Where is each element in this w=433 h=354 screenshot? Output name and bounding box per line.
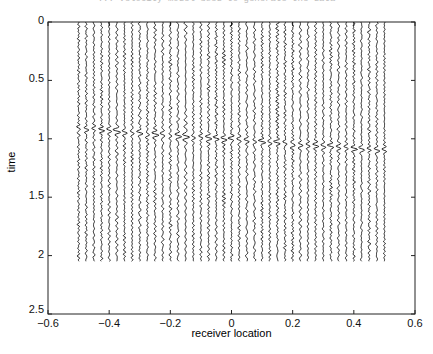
y-tick-label: 2.5 xyxy=(14,303,44,315)
seismic-trace xyxy=(327,22,333,261)
wiggle-plot xyxy=(0,0,433,354)
seismic-trace xyxy=(199,22,204,261)
seismic-trace xyxy=(268,22,272,261)
seismic-trace xyxy=(258,22,265,261)
seismic-trace xyxy=(137,22,143,261)
seismic-trace xyxy=(122,22,127,261)
seismic-trace xyxy=(84,22,89,261)
seismic-trace xyxy=(205,22,211,261)
seismic-trace xyxy=(298,22,303,261)
seismic-trace xyxy=(359,22,365,261)
y-tick-label: 1.5 xyxy=(14,189,44,201)
seismic-trace xyxy=(313,22,319,261)
seismic-trace xyxy=(283,22,287,261)
y-tick-label: 1 xyxy=(14,131,44,143)
seismic-trace xyxy=(290,22,295,261)
seismic-trace xyxy=(244,22,249,261)
seismic-trace xyxy=(336,22,340,261)
seismic-trace xyxy=(92,22,96,261)
seismic-trace xyxy=(77,22,81,261)
seismic-trace xyxy=(192,22,196,261)
seismic-trace xyxy=(351,22,357,261)
seismic-trace xyxy=(113,22,120,261)
seismic-trace xyxy=(253,22,257,261)
y-tick-label: 0.5 xyxy=(14,72,44,84)
seismic-trace xyxy=(175,22,182,261)
seismic-trace xyxy=(145,22,149,261)
seismic-trace xyxy=(99,22,105,261)
seismic-trace xyxy=(130,22,134,261)
seismic-trace xyxy=(160,22,165,261)
seismic-trace xyxy=(367,22,371,261)
seismic-trace xyxy=(228,22,234,261)
seismic-trace xyxy=(344,22,348,261)
seismic-trace xyxy=(321,22,326,261)
y-axis-title: time xyxy=(5,147,17,177)
seismic-trace xyxy=(306,22,310,261)
seismic-trace xyxy=(182,22,189,261)
y-tick-label: 0 xyxy=(14,14,44,26)
seismic-trace xyxy=(374,22,380,261)
seismic-trace xyxy=(169,22,173,261)
seismic-trace xyxy=(152,22,159,261)
x-axis-title: receiver location xyxy=(0,327,433,339)
seismic-trace xyxy=(107,22,112,261)
seismic-trace xyxy=(221,22,227,261)
seismic-trace xyxy=(274,22,280,261)
y-tick-label: 2 xyxy=(14,248,44,260)
seismic-trace xyxy=(213,22,219,261)
seismic-trace xyxy=(237,22,241,261)
seismic-trace xyxy=(382,22,386,261)
